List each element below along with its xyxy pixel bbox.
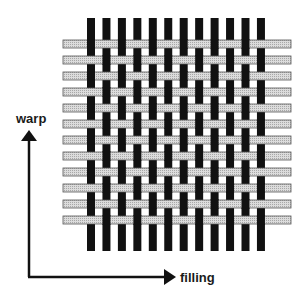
warp-over-crossing: [118, 135, 126, 145]
warp-over-crossing: [102, 151, 110, 161]
warp-over-crossing: [87, 167, 95, 177]
warp-over-crossing: [180, 199, 188, 209]
warp-over-crossing: [195, 119, 203, 129]
warp-over-crossing: [211, 135, 219, 145]
warp-over-crossing: [102, 87, 110, 97]
warp-over-crossing: [164, 151, 172, 161]
warp-over-crossing: [118, 103, 126, 113]
warp-over-crossing: [149, 39, 157, 49]
filling-thread: [63, 200, 291, 208]
warp-over-crossing: [133, 183, 141, 193]
warp-over-crossing: [133, 55, 141, 65]
warp-over-crossing: [257, 55, 265, 65]
warp-over-crossing: [226, 87, 234, 97]
warp-over-crossing: [211, 71, 219, 81]
warp-over-crossing: [211, 103, 219, 113]
warp-over-crossing: [180, 103, 188, 113]
warp-over-crossing: [242, 103, 250, 113]
warp-over-crossing: [257, 215, 265, 225]
filling-thread: [63, 152, 291, 160]
warp-over-crossing: [149, 71, 157, 81]
warp-crossings: [87, 39, 265, 225]
warp-over-crossing: [149, 199, 157, 209]
warp-over-crossing: [164, 119, 172, 129]
warp-over-crossing: [118, 167, 126, 177]
filling-thread: [63, 104, 291, 112]
warp-over-crossing: [242, 167, 250, 177]
warp-over-crossing: [87, 199, 95, 209]
warp-over-crossing: [226, 215, 234, 225]
warp-over-crossing: [211, 167, 219, 177]
warp-over-crossing: [164, 87, 172, 97]
warp-over-crossing: [226, 119, 234, 129]
warp-over-crossing: [242, 71, 250, 81]
warp-over-crossing: [133, 215, 141, 225]
warp-over-crossing: [180, 135, 188, 145]
warp-over-crossing: [87, 71, 95, 81]
filling-threads: [63, 40, 291, 224]
warp-over-crossing: [211, 39, 219, 49]
warp-over-crossing: [226, 55, 234, 65]
warp-over-crossing: [257, 119, 265, 129]
filling-thread: [63, 216, 291, 224]
warp-over-crossing: [257, 151, 265, 161]
warp-over-crossing: [102, 119, 110, 129]
warp-over-crossing: [226, 183, 234, 193]
filling-thread: [63, 88, 291, 96]
warp-over-crossing: [118, 71, 126, 81]
warp-label: warp: [16, 112, 46, 125]
warp-over-crossing: [195, 183, 203, 193]
warp-arrow-icon: [21, 130, 37, 141]
warp-over-crossing: [102, 215, 110, 225]
warp-over-crossing: [211, 199, 219, 209]
warp-over-crossing: [242, 135, 250, 145]
warp-over-crossing: [149, 135, 157, 145]
filling-thread: [63, 168, 291, 176]
filling-thread: [63, 184, 291, 192]
warp-over-crossing: [242, 39, 250, 49]
warp-over-crossing: [118, 199, 126, 209]
filling-label: filling: [180, 271, 215, 284]
warp-over-crossing: [242, 199, 250, 209]
warp-over-crossing: [87, 135, 95, 145]
warp-over-crossing: [87, 39, 95, 49]
warp-over-crossing: [257, 87, 265, 97]
warp-over-crossing: [257, 183, 265, 193]
warp-over-crossing: [195, 151, 203, 161]
warp-over-crossing: [133, 119, 141, 129]
weave-diagram: [0, 0, 302, 299]
filling-thread: [63, 136, 291, 144]
warp-over-crossing: [180, 167, 188, 177]
warp-over-crossing: [133, 151, 141, 161]
filling-arrow-icon: [164, 269, 176, 285]
warp-over-crossing: [164, 183, 172, 193]
warp-over-crossing: [133, 87, 141, 97]
warp-over-crossing: [195, 87, 203, 97]
warp-over-crossing: [226, 151, 234, 161]
warp-over-crossing: [180, 39, 188, 49]
warp-over-crossing: [180, 71, 188, 81]
filling-thread: [63, 72, 291, 80]
warp-over-crossing: [195, 215, 203, 225]
warp-over-crossing: [102, 183, 110, 193]
warp-over-crossing: [164, 55, 172, 65]
warp-over-crossing: [102, 55, 110, 65]
filling-thread: [63, 40, 291, 48]
warp-over-crossing: [164, 215, 172, 225]
warp-over-crossing: [87, 103, 95, 113]
warp-over-crossing: [195, 55, 203, 65]
warp-over-crossing: [118, 39, 126, 49]
filling-thread: [63, 56, 291, 64]
warp-over-crossing: [149, 103, 157, 113]
warp-over-crossing: [149, 167, 157, 177]
filling-thread: [63, 120, 291, 128]
